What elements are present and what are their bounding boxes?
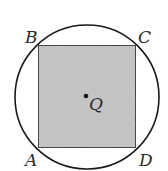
vertex-label-a: A [23,150,37,170]
vertex-label-c: C [138,27,151,47]
center-label-q: Q [89,94,103,114]
geometry-diagram: Q B C D A [0,0,168,171]
vertex-label-b: B [24,27,38,47]
vertex-label-d: D [138,150,153,170]
diagram-canvas: Q B C D A [0,0,168,171]
center-point-dot [84,94,89,99]
